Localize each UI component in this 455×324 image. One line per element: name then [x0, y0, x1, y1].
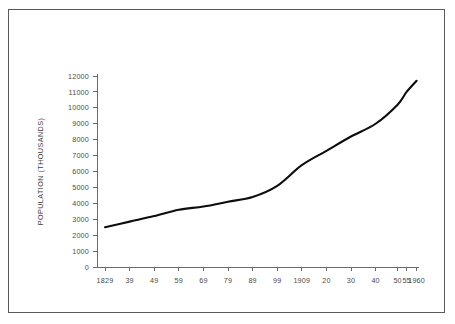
y-axis-tick-label: 7000 — [72, 151, 89, 160]
y-axis-tick-label: 4000 — [72, 199, 89, 208]
y-axis-tick-label: 8000 — [72, 135, 89, 144]
x-axis-tick-label: 40 — [371, 276, 379, 285]
x-axis-tick-label: 79 — [224, 276, 232, 285]
y-axis-tick-label: 12000 — [68, 72, 89, 81]
y-axis-tick-label: 0 — [85, 263, 89, 272]
x-axis-tick-label: 1909 — [293, 276, 310, 285]
y-axis-tick-label: 3000 — [72, 215, 89, 224]
x-axis-tick-label: 69 — [199, 276, 207, 285]
x-axis-tick-label: 50 — [393, 276, 401, 285]
x-axis-tick-label: 89 — [248, 276, 256, 285]
x-axis-tick-label: 1829 — [97, 276, 114, 285]
x-axis-tick-label: 59 — [175, 276, 183, 285]
population-line-chart: 0100020003000400050006000700080009000100… — [9, 10, 446, 314]
y-axis-tick-label: 9000 — [72, 119, 89, 128]
chart-outer-frame: 0100020003000400050006000700080009000100… — [8, 9, 445, 313]
population-series-line — [105, 81, 417, 227]
y-axis-tick-label: 1000 — [72, 247, 89, 256]
y-axis-tick-label: 10000 — [68, 103, 89, 112]
x-axis-tick-label: 20 — [322, 276, 330, 285]
chart-page: 0100020003000400050006000700080009000100… — [0, 0, 455, 324]
x-axis-tick-label: 49 — [150, 276, 158, 285]
y-axis-tick-label: 5000 — [72, 183, 89, 192]
y-axis-tick-label: 6000 — [72, 167, 89, 176]
y-axis-tick-label: 11000 — [69, 88, 89, 97]
x-axis-tick-label: 99 — [273, 276, 281, 285]
y-axis-title: POPULATION (THOUSANDS) — [36, 118, 45, 226]
x-axis-tick-label: 39 — [125, 276, 133, 285]
x-axis-tick-label: 30 — [347, 276, 355, 285]
y-axis-tick-label: 2000 — [72, 231, 89, 240]
x-axis-tick-label: 1960 — [408, 276, 425, 285]
